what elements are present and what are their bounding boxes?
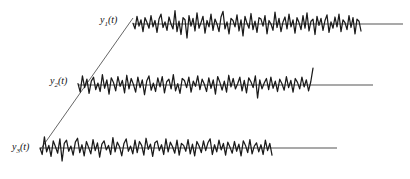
signal-trace-y3t (40, 137, 272, 161)
series-label-y3: y3(t) (11, 141, 30, 155)
series-label-y1: y1(t) (99, 14, 118, 28)
signal-traces-figure: y1(t)y2(t)y3(t) (0, 0, 410, 179)
series-label-y2: y2(t) (49, 75, 68, 89)
plot-canvas: y1(t)y2(t)y3(t) (0, 0, 410, 179)
signal-trace-y2t (78, 68, 313, 98)
